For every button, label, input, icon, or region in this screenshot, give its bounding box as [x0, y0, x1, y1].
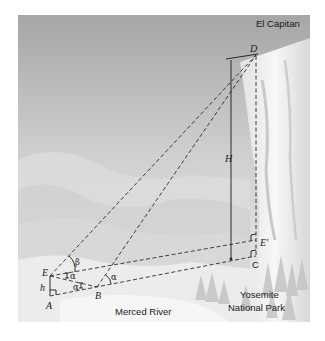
point-label-Eprime: E' — [259, 237, 269, 248]
point-label-A: A — [45, 300, 53, 311]
diagram-canvas: El Capitan D H E' C E h A B β α α α Merc… — [0, 0, 325, 341]
measure-label-h: h — [40, 282, 45, 293]
point-label-D: D — [249, 43, 258, 54]
point-label-C: C — [252, 259, 259, 270]
point-label-B: B — [95, 290, 101, 301]
landscape-background — [18, 15, 310, 322]
angle-label-alpha-B: α — [111, 272, 117, 282]
angle-label-beta: β — [75, 257, 80, 267]
angle-label-alpha-B-alt: α — [73, 282, 79, 292]
el-capitan-height-diagram: El Capitan D H E' C E h A B β α α α Merc… — [0, 0, 325, 341]
label-yosemite: Yosemite — [240, 289, 279, 300]
angle-label-alpha-E: α — [70, 271, 76, 281]
measure-label-H: H — [224, 153, 233, 164]
label-national-park: National Park — [228, 302, 285, 313]
point-label-E: E — [41, 267, 48, 278]
label-el-capitan: El Capitan — [256, 18, 300, 29]
label-merced-river: Merced River — [115, 306, 172, 317]
